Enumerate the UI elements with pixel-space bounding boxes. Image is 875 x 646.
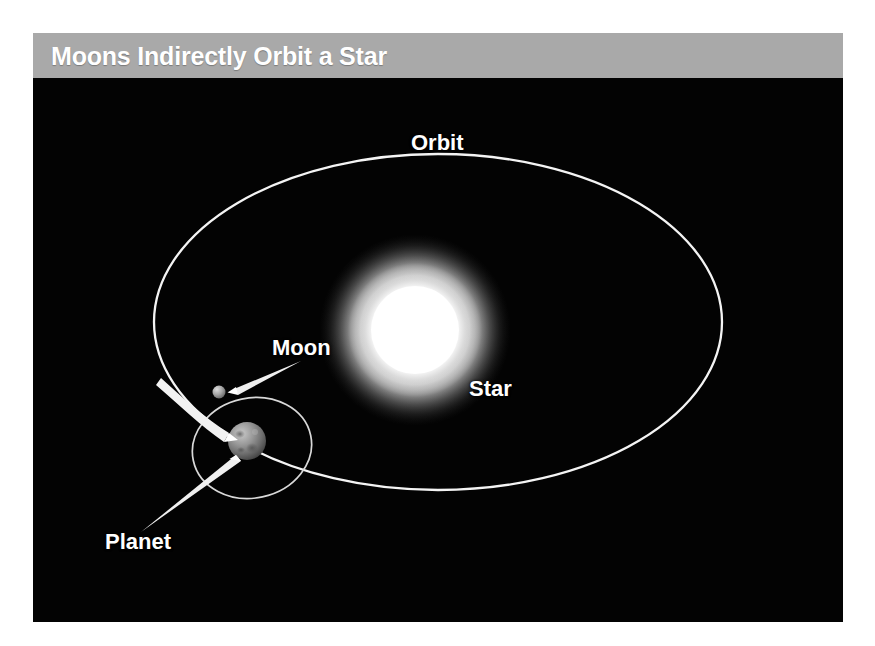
- label-moon: Moon: [272, 335, 331, 361]
- planet-leader-arrow: [141, 455, 241, 532]
- moon-body: [213, 386, 226, 399]
- label-orbit: Orbit: [411, 130, 464, 156]
- title-bar: Moons Indirectly Orbit a Star: [33, 33, 843, 78]
- page-title: Moons Indirectly Orbit a Star: [51, 41, 387, 70]
- diagram-canvas: Orbit Star Moon Planet: [33, 78, 843, 622]
- figure-root: Moons Indirectly Orbit a Star: [0, 0, 875, 646]
- label-star: Star: [469, 376, 512, 402]
- moon-leader-arrow: [228, 361, 302, 395]
- label-planet: Planet: [105, 529, 171, 555]
- planet-body: [228, 422, 266, 460]
